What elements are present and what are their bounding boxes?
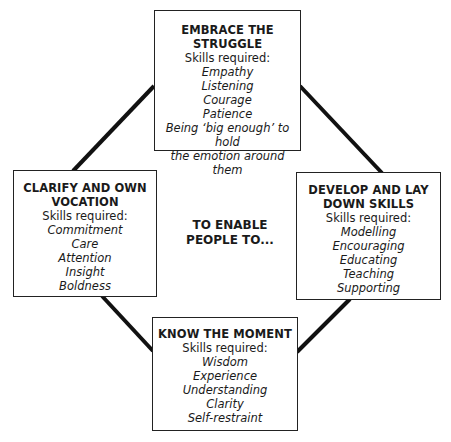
skill-item: Boldness bbox=[14, 279, 156, 293]
node-embrace-the-struggle: EMBRACE THE STRUGGLE Skills required: Em… bbox=[154, 10, 301, 151]
skill-item: Courage bbox=[155, 93, 300, 107]
skill-item: Clarity bbox=[153, 397, 297, 411]
node-clarify-and-own-vocation: CLARIFY AND OWN VOCATION Skills required… bbox=[13, 170, 157, 297]
node-title: DEVELOP AND LAY bbox=[297, 183, 440, 197]
node-subtitle: Skills required: bbox=[153, 341, 297, 355]
node-subtitle: Skills required: bbox=[155, 51, 300, 65]
skill-item: Supporting bbox=[297, 281, 440, 295]
connector-top-right bbox=[300, 86, 382, 173]
skill-item: Patience bbox=[155, 107, 300, 121]
node-title: CLARIFY AND OWN bbox=[14, 181, 156, 195]
node-title: KNOW THE MOMENT bbox=[153, 327, 297, 341]
node-subtitle: Skills required: bbox=[14, 209, 156, 223]
node-title: EMBRACE THE bbox=[155, 23, 300, 37]
connector-top-left bbox=[73, 86, 154, 171]
center-label: TO ENABLE PEOPLE TO... bbox=[180, 218, 280, 248]
connector-right-bottom bbox=[297, 299, 350, 352]
skill-item: the emotion around them bbox=[155, 149, 300, 177]
skill-item: Encouraging bbox=[297, 239, 440, 253]
node-title: VOCATION bbox=[14, 195, 156, 209]
node-know-the-moment: KNOW THE MOMENT Skills required: Wisdom … bbox=[152, 317, 298, 431]
center-label-line: PEOPLE TO... bbox=[180, 233, 280, 248]
skill-item: Self-restraint bbox=[153, 411, 297, 425]
node-title: STRUGGLE bbox=[155, 37, 300, 51]
skill-item: Insight bbox=[14, 265, 156, 279]
skill-item: Listening bbox=[155, 79, 300, 93]
node-subtitle: Skills required: bbox=[297, 211, 440, 225]
skill-item: Commitment bbox=[14, 223, 156, 237]
skill-item: Teaching bbox=[297, 267, 440, 281]
skill-item: Being ‘big enough’ to hold bbox=[155, 121, 300, 149]
skill-item: Attention bbox=[14, 251, 156, 265]
skill-item: Care bbox=[14, 237, 156, 251]
skill-item: Educating bbox=[297, 253, 440, 267]
skill-item: Understanding bbox=[153, 383, 297, 397]
connector-left-bottom bbox=[102, 296, 153, 351]
skill-item: Modelling bbox=[297, 225, 440, 239]
node-develop-and-lay-down-skills: DEVELOP AND LAY DOWN SKILLS Skills requi… bbox=[296, 172, 441, 300]
skill-item: Empathy bbox=[155, 65, 300, 79]
center-label-line: TO ENABLE bbox=[180, 218, 280, 233]
skill-item: Wisdom bbox=[153, 355, 297, 369]
skill-item: Experience bbox=[153, 369, 297, 383]
node-title: DOWN SKILLS bbox=[297, 197, 440, 211]
